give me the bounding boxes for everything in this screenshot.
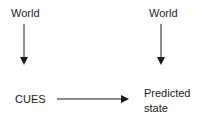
arrow-cues-to-predicted-state bbox=[57, 95, 129, 103]
arrow-world-left-to-cues bbox=[20, 24, 28, 65]
arrow-world-right-to-predicted-state bbox=[157, 24, 165, 65]
diagram-arrows bbox=[0, 0, 198, 120]
